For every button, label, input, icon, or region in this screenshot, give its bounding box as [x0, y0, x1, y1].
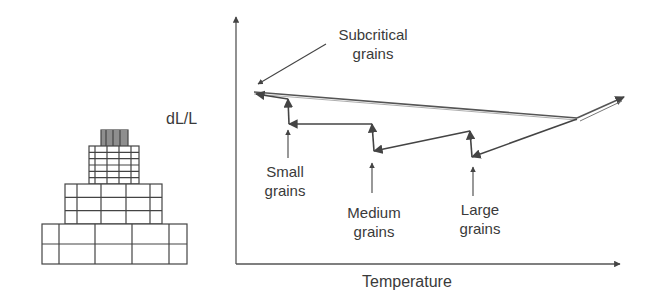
y-axis-label: dL/L: [166, 109, 197, 128]
large-grains-label: Large grains: [452, 200, 508, 238]
medium-label-line2: grains: [341, 222, 407, 241]
small-label-line1: Small: [255, 162, 315, 181]
subcritical-label-line2: grains: [326, 44, 420, 63]
pyramid-tier-4: [42, 224, 187, 264]
large-label-line1: Large: [452, 200, 508, 219]
staircase-curve: [256, 94, 577, 157]
medium-label-line1: Medium: [341, 203, 407, 222]
small-label-line2: grains: [255, 181, 315, 200]
medium-grains-label: Medium grains: [341, 203, 407, 241]
pyramid-top-tier: [101, 130, 128, 146]
large-label-line2: grains: [452, 219, 508, 238]
subcritical-pointer: [258, 44, 326, 84]
pyramid-tier-3: [65, 184, 162, 224]
subcritical-label: Subcritical grains: [326, 25, 420, 63]
small-grains-label: Small grains: [255, 162, 315, 200]
grain-pyramid: [42, 130, 187, 264]
pyramid-tier-2: [89, 146, 139, 184]
subcritical-label-line1: Subcritical: [326, 25, 420, 44]
x-axis-label: Temperature: [362, 272, 452, 291]
subcritical-curve: [254, 92, 624, 121]
